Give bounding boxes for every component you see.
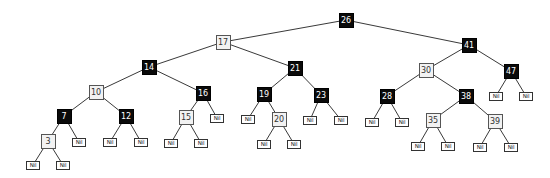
tree-node-7: 7 bbox=[57, 109, 72, 124]
tree-node-12: 12 bbox=[119, 109, 134, 124]
nil-leaf: Nil bbox=[257, 140, 271, 149]
nil-leaf: Nil bbox=[303, 116, 317, 125]
tree-node-20: 20 bbox=[272, 112, 287, 127]
nil-leaf: Nil bbox=[411, 142, 425, 151]
nil-leaf: Nil bbox=[56, 161, 70, 170]
nil-leaf: Nil bbox=[334, 116, 348, 125]
tree-edge bbox=[346, 20, 469, 45]
nil-leaf: Nil bbox=[287, 140, 301, 149]
tree-node-35: 35 bbox=[426, 113, 441, 128]
tree-node-47: 47 bbox=[504, 64, 519, 79]
tree-node-14: 14 bbox=[142, 60, 157, 75]
tree-node-16: 16 bbox=[196, 86, 211, 101]
nil-leaf: Nil bbox=[134, 138, 148, 147]
nil-leaf: Nil bbox=[489, 92, 503, 101]
red-black-tree-diagram: 26174114213047101619232838712152035393Ni… bbox=[0, 0, 550, 178]
tree-node-26: 26 bbox=[339, 13, 354, 28]
tree-edge bbox=[149, 42, 223, 67]
nil-leaf: Nil bbox=[26, 161, 40, 170]
nil-leaf: Nil bbox=[72, 138, 86, 147]
tree-node-39: 39 bbox=[488, 114, 503, 129]
nil-leaf: Nil bbox=[473, 143, 487, 152]
nil-leaf: Nil bbox=[504, 143, 518, 152]
nil-leaf: Nil bbox=[103, 138, 117, 147]
tree-node-41: 41 bbox=[462, 38, 477, 53]
nil-leaf: Nil bbox=[194, 139, 208, 148]
tree-node-21: 21 bbox=[288, 61, 303, 76]
tree-node-28: 28 bbox=[380, 89, 395, 104]
tree-edge bbox=[223, 20, 346, 42]
tree-node-10: 10 bbox=[89, 85, 104, 100]
tree-node-38: 38 bbox=[459, 89, 474, 104]
tree-node-17: 17 bbox=[216, 35, 231, 50]
nil-leaf: Nil bbox=[210, 114, 224, 123]
tree-node-3: 3 bbox=[41, 134, 56, 149]
tree-node-23: 23 bbox=[314, 88, 329, 103]
nil-leaf: Nil bbox=[241, 115, 255, 124]
tree-node-19: 19 bbox=[257, 87, 272, 102]
tree-node-30: 30 bbox=[419, 63, 434, 78]
nil-leaf: Nil bbox=[365, 118, 379, 127]
tree-edge bbox=[223, 42, 295, 68]
nil-leaf: Nil bbox=[519, 92, 533, 101]
tree-node-15: 15 bbox=[179, 110, 194, 125]
nil-leaf: Nil bbox=[441, 142, 455, 151]
nil-leaf: Nil bbox=[164, 139, 178, 148]
nil-leaf: Nil bbox=[395, 118, 409, 127]
